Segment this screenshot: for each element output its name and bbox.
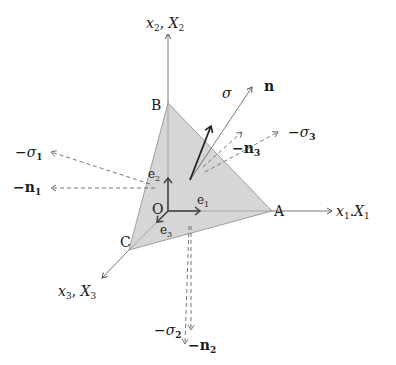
n-label: n [264,78,274,94]
x2-axis-label: x2, X2 [146,15,184,33]
x3-axis [102,250,129,278]
neg-n2-label: −n2 [188,337,216,355]
neg-n3-label: −n3 [232,140,260,158]
point-A-label: A [273,203,285,219]
neg-n1-label: −n1 [13,179,41,197]
x3-axis-label: x3, X3 [58,283,97,301]
point-C-label: C [120,234,131,250]
point-B-label: B [151,97,161,113]
neg-sigma3-label: −σ3 [288,124,316,142]
point-O-label: O [152,201,163,217]
sigma-label: σ [222,85,232,101]
x1-axis-label: x1.X1 [336,203,370,221]
neg-sigma1-label: −σ1 [15,144,43,162]
neg-sigma2-label: −σ2 [154,322,182,340]
neg-sigma2-arrow [185,226,189,344]
tetrahedron-diagram: x2, X2 x1.X1 x3, X3 B A C O e1 e2 e3 σ n… [0,0,396,365]
neg-sigma1-arrow [51,152,150,184]
